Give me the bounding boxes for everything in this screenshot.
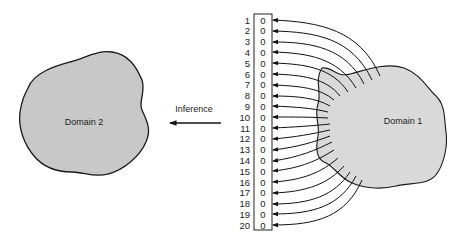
svg-text:0: 0 <box>260 166 265 177</box>
inference-label: Inference <box>175 104 213 114</box>
domain-1-label: Domain 1 <box>384 116 423 126</box>
svg-text:0: 0 <box>260 187 265 198</box>
svg-text:4: 4 <box>245 47 250 58</box>
domain-2-shape <box>20 52 149 176</box>
svg-text:10: 10 <box>239 112 250 123</box>
svg-text:16: 16 <box>239 177 250 188</box>
svg-text:1: 1 <box>245 15 250 26</box>
domain-2-label: Domain 2 <box>65 117 104 127</box>
svg-text:20: 20 <box>239 220 250 231</box>
svg-text:0: 0 <box>260 69 265 80</box>
svg-text:0: 0 <box>260 15 265 26</box>
svg-text:0: 0 <box>260 36 265 47</box>
inference-diagram: Domain 2 Domain 1 Inference 1 2 3 4 5 <box>0 0 465 246</box>
svg-text:0: 0 <box>260 90 265 101</box>
svg-text:18: 18 <box>239 198 250 209</box>
svg-text:0: 0 <box>260 133 265 144</box>
svg-text:0: 0 <box>260 155 265 166</box>
svg-text:13: 13 <box>239 144 250 155</box>
vector-indices: 1 2 3 4 5 6 7 8 9 10 11 12 13 14 15 16 1… <box>239 15 250 231</box>
svg-text:8: 8 <box>245 90 250 101</box>
svg-text:15: 15 <box>239 166 250 177</box>
svg-text:0: 0 <box>260 209 265 220</box>
vector-values: 0 0 0 0 0 0 0 0 0 0 0 0 0 0 0 0 0 0 0 0 <box>260 15 265 231</box>
svg-text:0: 0 <box>260 220 265 231</box>
svg-text:12: 12 <box>239 133 250 144</box>
svg-text:0: 0 <box>260 144 265 155</box>
svg-text:2: 2 <box>245 25 250 36</box>
svg-text:0: 0 <box>260 58 265 69</box>
svg-text:0: 0 <box>260 101 265 112</box>
svg-text:0: 0 <box>260 112 265 123</box>
svg-text:14: 14 <box>239 155 250 166</box>
svg-text:11: 11 <box>240 123 250 134</box>
svg-text:0: 0 <box>260 198 265 209</box>
svg-text:0: 0 <box>260 47 265 58</box>
svg-text:0: 0 <box>260 177 265 188</box>
svg-text:0: 0 <box>260 25 265 36</box>
svg-text:19: 19 <box>239 209 250 220</box>
svg-text:17: 17 <box>239 187 250 198</box>
svg-text:3: 3 <box>245 36 250 47</box>
svg-text:7: 7 <box>245 79 250 90</box>
svg-text:9: 9 <box>245 101 250 112</box>
svg-text:0: 0 <box>260 79 265 90</box>
svg-text:6: 6 <box>245 69 250 80</box>
domain-1-shape <box>317 66 447 188</box>
svg-text:0: 0 <box>260 123 265 134</box>
svg-text:5: 5 <box>245 58 250 69</box>
